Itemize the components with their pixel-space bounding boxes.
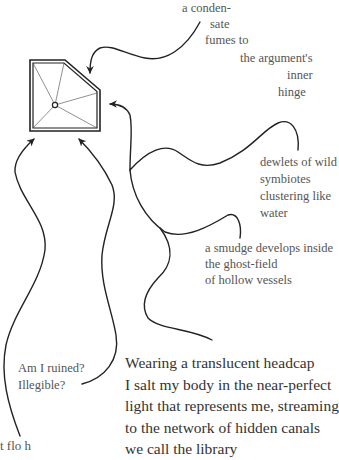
- line: Am I ruined?: [18, 360, 85, 376]
- line: we call the library: [125, 438, 339, 460]
- line: hinge: [278, 84, 306, 100]
- line: a conden-: [182, 0, 231, 16]
- line: Illegible?: [18, 377, 65, 393]
- line: light that represents me, streaming: [125, 395, 339, 417]
- line: the argument's: [240, 50, 313, 66]
- line: the ghost-field: [205, 256, 278, 272]
- branch-to-smudge: [130, 170, 241, 238]
- line: of hollow vessels: [205, 272, 292, 288]
- line: clustering like: [260, 188, 331, 204]
- arrow-from-ruined: [79, 139, 117, 384]
- line: I salt my body in the near-perfect: [125, 374, 339, 396]
- line: fumes to: [205, 32, 248, 48]
- line: a smudge develops inside: [205, 240, 333, 256]
- line: sate: [210, 16, 229, 32]
- arrow-from-condensate: [90, 22, 200, 73]
- line: to the network of hidden canals: [125, 417, 339, 439]
- main-paragraph: Wearing a translucent headcap I salt my …: [125, 352, 339, 460]
- line: water: [260, 205, 288, 221]
- branch-lower: [144, 228, 212, 340]
- line: Wearing a translucent headcap: [125, 352, 339, 374]
- line: inner: [287, 67, 313, 83]
- line: symbiotes: [260, 171, 311, 187]
- clipped-bottom-text: t flo h: [0, 438, 31, 454]
- line: dewlets of wild: [260, 154, 337, 170]
